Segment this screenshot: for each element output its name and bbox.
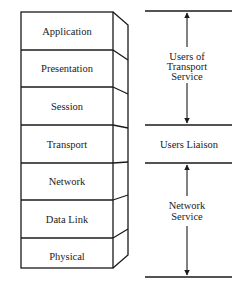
layer-transport: Transport	[47, 139, 88, 150]
layer-application: Application	[42, 26, 92, 37]
group-network-service: Network Service	[162, 197, 212, 224]
layer-data-link: Data Link	[46, 214, 89, 225]
layer-session: Session	[51, 101, 84, 112]
osi-diagram: Application Presentation Session Transpo…	[0, 0, 249, 284]
group-label-line: Service	[171, 71, 203, 82]
group-label-line: Network	[169, 200, 206, 211]
layer-physical: Physical	[49, 251, 85, 262]
group-transport-users: Users of Transport Service	[160, 49, 214, 82]
layer-presentation: Presentation	[41, 63, 94, 74]
group-users-liaison: Users Liaison	[160, 139, 219, 150]
group-label-line: Service	[171, 211, 203, 222]
layer-network: Network	[49, 176, 86, 187]
